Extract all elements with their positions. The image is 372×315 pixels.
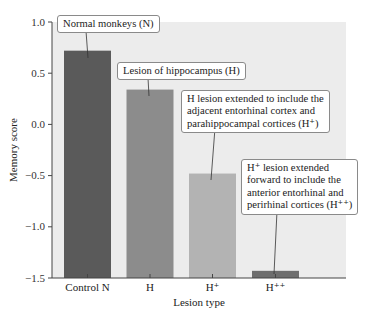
callout-h-plus-plus-line-2: forward to include the [247,174,352,186]
y-tick-label: 0.0 [31,118,45,130]
callout-h-plus-line-3: parahippocampal cortices (H⁺) [187,118,324,130]
callout-hippocampus-lesion-text: Lesion of hippocampus (H) [123,65,240,76]
x-tick-label: H⁺⁺ [266,281,286,293]
callout-h-plus-plus-line-3: anterior entorhinal and [247,187,352,199]
callout-normal-monkeys: Normal monkeys (N) [57,15,160,33]
x-tick-label: Control N [65,281,109,293]
x-tick-label: H [146,281,154,293]
chart-canvas: 1.00.50.0−0.5−1.0−1.5Control NHH⁺H⁺⁺Lesi… [0,0,372,315]
y-tick-label: −1.5 [25,272,45,284]
y-tick-label: 1.0 [31,16,45,28]
x-axis-label: Lesion type [173,296,225,308]
callout-h-plus: H lesion extended to include the adjacen… [181,90,330,133]
callout-h-plus-plus-line-1: H⁺ lesion extended [247,162,352,174]
y-tick-label: −0.5 [25,169,45,181]
x-tick-label: H⁺ [206,281,220,293]
y-tick-label: −1.0 [25,220,45,232]
callout-h-plus-line-1: H lesion extended to include the [187,93,324,105]
callout-h-plus-plus-line-4: perirhinal cortices (H⁺⁺) [247,199,352,211]
bar-2 [189,174,236,278]
callout-h-plus-plus: H⁺ lesion extended forward to include th… [241,159,358,215]
y-tick-label: 0.5 [31,67,45,79]
bar-1 [127,90,174,278]
y-axis-label: Memory score [7,118,19,182]
callout-normal-monkeys-text: Normal monkeys (N) [63,18,154,29]
callout-hippocampus-lesion: Lesion of hippocampus (H) [117,62,246,80]
memory-score-bar-chart: 1.00.50.0−0.5−1.0−1.5Control NHH⁺H⁺⁺Lesi… [0,0,372,315]
bar-0 [64,51,111,278]
callout-h-plus-line-2: adjacent entorhinal cortex and [187,105,324,117]
